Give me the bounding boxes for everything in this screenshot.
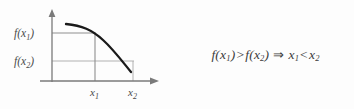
formula-result-left: x1: [288, 47, 299, 63]
y-label-fx2: f(x2): [14, 55, 34, 70]
greater-than-operator: >: [235, 47, 245, 63]
x-tick-label-x1: x1: [89, 86, 99, 101]
formula-panel: f(x1)>f(x2)⇒x1<x2: [177, 0, 354, 109]
graph-panel: f(x1) f(x2) x1 x2: [0, 0, 177, 109]
formula-lhs: f(x1): [211, 47, 235, 63]
less-than-operator: <: [299, 47, 309, 63]
y-axis-arrowhead-icon: [49, 9, 56, 17]
formula-rhs: f(x2): [245, 47, 269, 63]
figure-screenshot: f(x1) f(x2) x1 x2 f(x1)>f(x2)⇒x1<x2: [0, 0, 354, 109]
x-tick-label-x2: x2: [127, 86, 137, 101]
function-curve: [66, 24, 131, 72]
y-label-fx1: f(x1): [14, 27, 34, 42]
x-axis-arrowhead-icon: [150, 77, 159, 84]
formula-result-right: x2: [309, 47, 320, 63]
implication-statement: f(x1)>f(x2)⇒x1<x2: [177, 0, 354, 109]
decreasing-function-svg: f(x1) f(x2) x1 x2: [0, 0, 177, 109]
implies-arrow-icon: ⇒: [269, 47, 288, 63]
